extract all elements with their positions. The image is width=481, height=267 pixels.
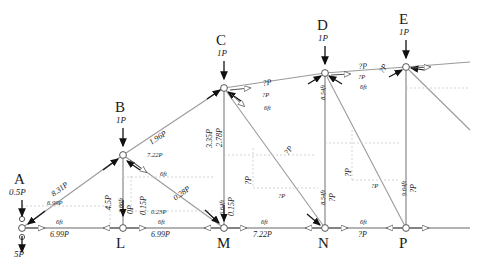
node-d xyxy=(322,70,329,77)
force-label-bl: 0P xyxy=(127,205,135,214)
force-label-de: ?P xyxy=(358,62,368,71)
force-label-bc-horiz: 7.22P xyxy=(147,152,162,159)
dim-label-bc: 6ft xyxy=(160,171,167,178)
force-label-ab-horiz: 6.99P xyxy=(47,200,62,207)
load-label-e: 1P xyxy=(399,28,409,37)
node-a xyxy=(19,225,26,232)
dim-label-cd: 6ft xyxy=(264,105,271,112)
force-label-dn: ?P xyxy=(329,193,337,202)
node-m xyxy=(221,225,228,232)
load-arrows xyxy=(22,40,406,216)
load-label-d: 1P xyxy=(318,34,328,43)
dim-label-de: 6ft xyxy=(360,84,367,91)
force-label-dp-horiz: ?P xyxy=(371,183,378,190)
node-label-d: D xyxy=(317,18,328,33)
force-label-cn-vert: ?P xyxy=(245,176,253,185)
len-label-dn: 8.54ft xyxy=(320,190,327,205)
node-b xyxy=(120,152,127,159)
node-n xyxy=(322,225,329,232)
node-e xyxy=(403,64,410,71)
force-label-cn-horiz: ?P xyxy=(278,193,285,200)
force-label-mn: 7.22P xyxy=(253,231,272,239)
reaction-label-a: 5P xyxy=(14,250,24,259)
len-label-ep: 9.64ft xyxy=(401,181,408,196)
load-label-c: 1P xyxy=(217,49,227,58)
force-label-lm: 6.99P xyxy=(151,231,170,239)
diagram-canvas xyxy=(0,0,481,267)
len-label-bl: 3.86ft xyxy=(118,198,125,213)
node-markers xyxy=(19,64,410,240)
dim-label-al: 6ft xyxy=(56,219,63,226)
component-guides xyxy=(22,88,470,228)
node-label-p: P xyxy=(399,236,407,251)
len-label-cm: 6.64ft xyxy=(219,200,226,215)
load-label-a: 0.5P xyxy=(9,188,26,197)
load-label-b: 1P xyxy=(116,116,126,125)
truss-diagram: A B C D E L M N P 0.5P 1P 1P 1P 1P 5P 8.… xyxy=(0,0,481,267)
node-label-e: E xyxy=(399,12,408,27)
force-label-dp-vert: ?P xyxy=(345,168,353,177)
force-label-bm-vert: 0.15P xyxy=(140,196,148,215)
force-label-lb: 4.5P xyxy=(105,195,113,210)
node-l xyxy=(120,225,127,232)
top-chord xyxy=(22,62,470,228)
node-label-m: M xyxy=(217,236,230,251)
force-label-ep: ?P xyxy=(410,184,418,193)
force-label-cm-vert: 2.78P xyxy=(216,128,224,147)
node-label-a: A xyxy=(14,172,25,187)
dim-label-np: 6ft xyxy=(360,219,367,226)
len-label-d-stub: 8.54ft xyxy=(320,85,327,100)
force-label-al: 6.99P xyxy=(50,231,69,239)
web-diagonals xyxy=(123,67,470,228)
force-label-cm-web: 3.35P xyxy=(206,129,214,148)
dim-label-mn: 6ft xyxy=(261,219,268,226)
node-label-b: B xyxy=(115,100,125,115)
force-label-np: ?P xyxy=(358,231,367,239)
node-c xyxy=(221,85,228,92)
node-p xyxy=(403,225,410,232)
force-label-de-horiz: ?P xyxy=(358,74,365,81)
node-label-l: L xyxy=(116,236,125,251)
force-label-cd-horiz: ?P xyxy=(262,92,269,99)
force-label-bm-horiz: 0.23P xyxy=(151,209,166,216)
force-label-cm: 0.15P xyxy=(228,197,236,216)
force-label-cd: ?P xyxy=(262,79,272,88)
node-label-n: N xyxy=(318,236,329,251)
node-label-c: C xyxy=(216,33,226,48)
dim-label-lm: 6ft xyxy=(158,219,165,226)
